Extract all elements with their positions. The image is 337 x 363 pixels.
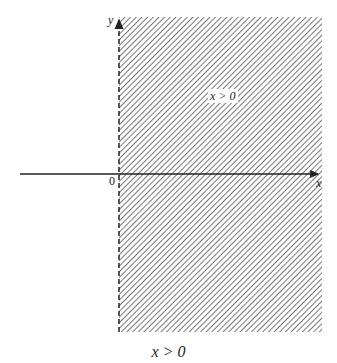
- origin-label: 0: [109, 174, 115, 188]
- x-axis-label: x: [315, 176, 322, 190]
- y-axis-label: y: [107, 13, 114, 27]
- figure-caption-text: x > 0: [152, 343, 186, 360]
- figure-caption: x > 0: [0, 343, 337, 361]
- region-label: x > 0: [209, 89, 235, 103]
- inequality-graph: y x 0 x > 0: [0, 0, 337, 363]
